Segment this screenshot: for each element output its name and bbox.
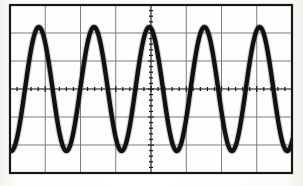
graticule-display <box>0 0 303 186</box>
oscilloscope-photo <box>0 0 303 186</box>
scope-trace-svg <box>0 0 303 186</box>
